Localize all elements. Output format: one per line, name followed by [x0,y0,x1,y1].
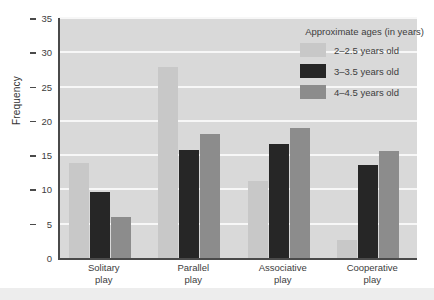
y-tick-mark [30,18,36,20]
y-axis-line [58,18,60,259]
gridline [59,154,417,156]
bar [179,150,199,258]
y-tick-mark [30,224,36,226]
bar [200,134,220,258]
x-tick-label: Parallelplay [149,262,239,285]
bar-chart-figure: Frequency 05101520253035 SolitaryplayPar… [0,0,434,300]
legend-entries: 2–2.5 years old3–3.5 years old4–4.5 year… [228,43,426,99]
y-tick-mark [30,52,36,54]
legend-entry: 3–3.5 years old [228,64,426,78]
bar [158,67,178,258]
bar [358,165,378,258]
legend-swatch [300,43,326,57]
legend-swatch [300,64,326,78]
legend: Approximate ages (in years) 2–2.5 years … [228,26,426,106]
gridline [59,120,417,122]
x-tick-label: Solitaryplay [59,262,149,285]
bar [269,144,289,258]
bar [90,192,110,258]
legend-entry: 4–4.5 years old [228,85,426,99]
y-tick-mark [30,155,36,157]
legend-swatch [300,85,326,99]
legend-title: Approximate ages (in years) [228,26,426,37]
bar [111,217,131,258]
legend-label: 3–3.5 years old [334,66,426,77]
y-tick-mark [30,189,36,191]
footer-band [0,288,434,300]
bar [379,151,399,258]
legend-entry: 2–2.5 years old [228,43,426,57]
bar [290,128,310,258]
bar [69,163,89,258]
y-axis-ticks: 05101520253035 [22,0,52,300]
legend-label: 4–4.5 years old [334,87,426,98]
x-tick-label: Cooperativeplay [328,262,418,285]
gridline [59,17,417,19]
x-axis-line [58,258,417,260]
y-tick-label: 0 [26,253,52,264]
bar [337,240,357,259]
y-tick-mark [30,121,36,123]
y-axis-title: Frequency [11,51,22,151]
bar [248,181,268,258]
y-tick-mark [30,87,36,89]
legend-label: 2–2.5 years old [334,45,426,56]
x-tick-label: Associativeplay [238,262,328,285]
